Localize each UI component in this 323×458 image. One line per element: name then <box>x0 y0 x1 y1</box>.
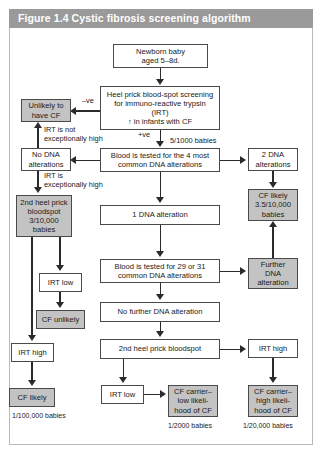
node-no-dna-alterations: No DNA alterations <box>21 148 71 171</box>
arrowhead-to-further-dna-alteration <box>240 267 246 275</box>
connector-to-irt-high-right <box>220 349 240 351</box>
connector-left-trunk <box>31 237 33 337</box>
edge-label-positive: +ve <box>138 131 150 140</box>
connector-2-dna-to-cf-likely <box>272 171 274 182</box>
arrowhead-further-dna-to-cf-likely <box>269 221 277 227</box>
node-cf-carrier-high-likelihood: CF carrier– high likeli- hood of CF <box>248 385 298 417</box>
connector-second-heel-prick-down <box>123 359 125 379</box>
node-2-dna-alterations: 2 DNA alterations <box>248 148 298 171</box>
node-cf-unlikely: CF unlikely <box>36 310 85 329</box>
arrowhead-newborn-to-irt <box>156 79 164 85</box>
connector-to-2-dna-alterations <box>220 160 240 162</box>
arrowhead-no-dna-to-unlikely <box>34 122 42 128</box>
arrowhead-1-dna-to-blood29 <box>156 251 164 257</box>
footnote-center: 1/2000 babies <box>168 422 212 431</box>
node-blood-tested-4-common: Blood is tested for the 4 most common DN… <box>100 148 220 172</box>
node-second-heel-prick-bloodspot-center: 2nd heel prick bloodspot <box>100 339 220 359</box>
node-irt-high-right: IRT high <box>248 339 298 358</box>
connector-to-no-dna-alterations <box>76 160 100 162</box>
node-irt-low-center: IRT low <box>101 385 144 404</box>
arrowhead-irt-positive <box>156 141 164 147</box>
node-irt-high-left: IRT high <box>11 343 54 362</box>
node-cf-carrier-low-likelihood: CF carrier– low likeli- hood of CF <box>168 385 218 417</box>
flowchart-canvas: Newborn baby aged 5–8d. Heel prick blood… <box>0 0 323 458</box>
arrowhead-blood29-to-no-further <box>156 294 164 300</box>
connector-further-dna-to-cf-likely <box>272 227 274 258</box>
footnote-right: 1/20,000 babies <box>243 422 293 431</box>
connector-blood4-to-1-dna <box>160 172 162 199</box>
edge-label-5-per-1000: 5/1000 babies <box>170 137 216 146</box>
node-second-heel-prick-bloodspot-left: 2nd heel prick bloodspot 3/10,000 babies <box>16 195 72 237</box>
edge-label-negative: –ve <box>82 97 94 106</box>
connector-irt-high-right-to-carrier-high <box>272 358 274 379</box>
connector-irt-high-left-to-cf-likely <box>31 362 33 382</box>
node-cf-likely-left: CF likely <box>9 388 55 407</box>
connector-no-dna-to-unlikely <box>37 128 39 148</box>
arrowhead-irt-high-right-to-carrier-high <box>269 377 277 383</box>
node-further-dna-alteration: Further DNA alteration <box>248 258 298 289</box>
node-no-further-dna-alteration: No further DNA alteration <box>100 302 220 322</box>
arrowhead-blood4-to-1-dna <box>156 197 164 203</box>
arrowhead-to-2-dna-alterations <box>240 156 246 164</box>
node-unlikely-to-have-cf: Unlikely to have CF <box>21 99 71 122</box>
arrowhead-irt-high-left-to-cf-likely <box>28 380 36 386</box>
connector-1-dna-to-blood29 <box>160 225 162 253</box>
arrowhead-left-trunk <box>28 335 36 341</box>
arrowhead-irt-low-center-to-carrier-low <box>160 390 166 398</box>
edge-label-irt-not-exceptionally-high: IRT is not exceptionally high <box>44 126 103 143</box>
arrowhead-to-irt-high-right <box>240 345 246 353</box>
arrowhead-second-heel-prick-down <box>119 377 127 383</box>
node-1-dna-alteration: 1 DNA alteration <box>100 205 220 225</box>
arrowhead-irt-low-left-to-cf-unlikely <box>56 302 64 308</box>
footnote-left: 1/100,000 babies <box>12 412 66 421</box>
connector-left-box-to-irt-low <box>59 237 61 267</box>
arrowhead-2-dna-to-cf-likely <box>269 182 277 188</box>
connector-irt-low-center-to-carrier-low <box>144 394 160 396</box>
arrowhead-left-box-to-irt-low <box>56 265 64 271</box>
figure-container: Figure 1.4 Cystic fibrosis screening alg… <box>0 0 323 458</box>
node-cf-likely-right: CF likely 3.5/10,000 babies <box>248 189 298 221</box>
edge-label-irt-is-exceptionally-high: IRT is exceptionally high <box>44 172 103 189</box>
connector-to-further-dna-alteration <box>220 271 240 273</box>
arrowhead-no-further-to-second-heel-prick <box>156 331 164 337</box>
node-heel-prick-irt-screening: Heel prick blood-spot screening for immu… <box>100 86 220 130</box>
node-irt-low-left: IRT low <box>39 273 82 292</box>
connector-irt-negative <box>76 110 100 112</box>
node-blood-tested-29-31: Blood is tested for 29 or 31 common DNA … <box>100 259 220 283</box>
arrowhead-no-dna-to-second-heel-prick <box>34 187 42 193</box>
node-newborn-baby: Newborn baby aged 5–8d. <box>113 44 208 68</box>
